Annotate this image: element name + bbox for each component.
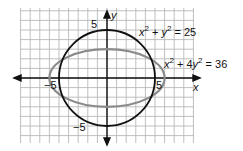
tick-x-pos: 5 <box>156 80 162 91</box>
ellipse-equation-label: x2 + 4y2 = 36 <box>164 57 227 70</box>
eq1-plus: + <box>149 26 162 38</box>
x-axis-label: x <box>193 82 199 93</box>
eq1-rhs: = 25 <box>171 26 196 38</box>
tick-x-neg: −5 <box>44 80 57 91</box>
eq2-plus: + 4 <box>174 58 193 70</box>
graph-svg <box>0 0 243 151</box>
circle-equation-label: x2 + y2 = 25 <box>139 25 196 38</box>
y-axis-label: y <box>111 10 117 21</box>
tick-y-pos: 5 <box>91 19 97 30</box>
y-axis-down-arrow-icon <box>104 138 110 145</box>
tick-y-neg: −5 <box>73 122 86 133</box>
eq2-rhs: = 36 <box>203 58 228 70</box>
y-axis-up-arrow-icon <box>104 11 110 18</box>
x-axis-left-arrow-icon <box>14 75 21 81</box>
